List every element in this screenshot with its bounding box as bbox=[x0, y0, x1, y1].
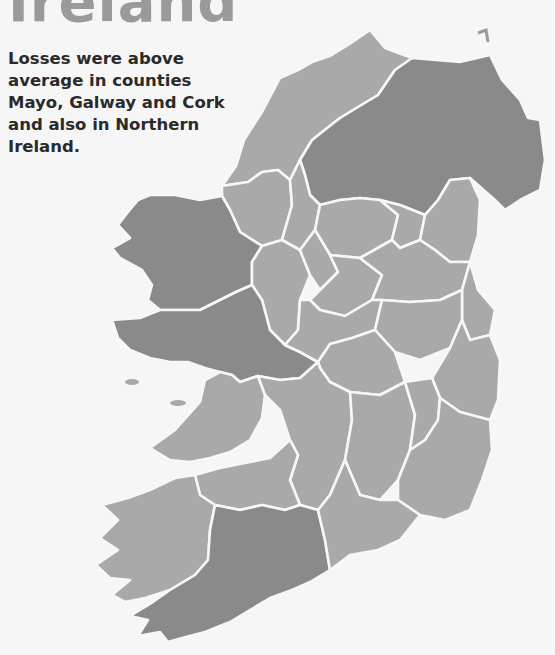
map-title: Ireland bbox=[8, 0, 238, 30]
county-dublin[interactable] bbox=[462, 262, 495, 340]
island-rathlin bbox=[478, 30, 488, 42]
map-caption: Losses were above average in counties Ma… bbox=[8, 48, 238, 158]
county-clare[interactable] bbox=[150, 372, 265, 462]
island-achill bbox=[125, 379, 139, 385]
island-aran bbox=[170, 400, 186, 406]
